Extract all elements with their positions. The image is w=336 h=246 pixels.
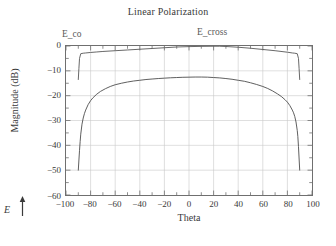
x-tick-label: 100 — [298, 199, 328, 209]
y-tick-label: −20 — [31, 91, 61, 100]
polarization-indicator: E — [4, 196, 38, 222]
data-curves — [66, 46, 312, 195]
arrow-up-icon — [18, 196, 27, 216]
polarization-e-label: E — [4, 204, 10, 215]
y-tick-label: 0 — [31, 41, 61, 50]
y-axis-title: Magnitude (dB) — [9, 41, 20, 161]
y-tick-label: −10 — [31, 66, 61, 75]
chart-page: Linear Polarization E_co E_cross 0−10−20… — [0, 0, 336, 246]
y-tick-label: −50 — [31, 166, 61, 175]
y-tick-label: −40 — [31, 141, 61, 150]
chart-title: Linear Polarization — [0, 6, 336, 17]
series-annotation-e-cross: E_cross — [197, 27, 227, 37]
x-axis-title: Theta — [65, 212, 313, 223]
y-tick-label: −30 — [31, 116, 61, 125]
y-axis-tick-labels: 0−10−20−30−40−50−60 — [28, 45, 61, 196]
x-axis-tick-labels: −100−80−60−40−20020406080100 — [65, 199, 313, 213]
series-annotation-e-co: E_co — [62, 29, 82, 39]
plot-area — [65, 45, 313, 196]
